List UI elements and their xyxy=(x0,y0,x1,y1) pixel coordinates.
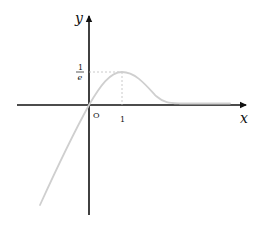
y-axis-label: y xyxy=(74,10,84,26)
y-tick-label-denominator: e xyxy=(78,73,83,82)
function-curve xyxy=(40,72,230,205)
y-tick-label-numerator: 1 xyxy=(78,63,83,72)
function-graph: y x O 1 1 e xyxy=(0,0,263,229)
x-tick-label: 1 xyxy=(120,115,125,124)
origin-label: O xyxy=(93,111,100,120)
x-axis-label: x xyxy=(240,110,248,126)
